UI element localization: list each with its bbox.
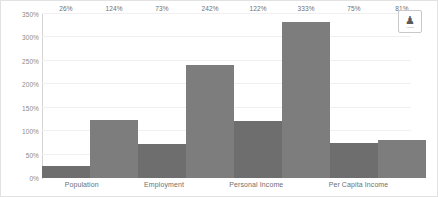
- y-tick-label: 200%: [3, 81, 39, 88]
- y-tick-label: 150%: [3, 104, 39, 111]
- bar-column: 333%: [282, 14, 330, 178]
- bar-column: 81%: [378, 14, 426, 178]
- chart-figure: 0%50%100%150%200%250%300%350% 26%124%73%…: [0, 0, 438, 197]
- logo-badge[interactable]: ♟ LOGO: [398, 10, 422, 33]
- bar-value-label: 73%: [155, 5, 168, 12]
- bar-value-label: 122%: [249, 5, 266, 12]
- bar-value-label: 75%: [347, 5, 360, 12]
- bar-groups: 26%124%73%242%122%333%75%81%: [42, 14, 411, 178]
- bar-group: 73%242%: [138, 14, 234, 178]
- y-tick-label: 50%: [3, 151, 39, 158]
- logo-caption: LOGO: [406, 26, 414, 29]
- y-tick-label: 100%: [3, 128, 39, 135]
- bar-column: 75%: [330, 14, 378, 178]
- x-tick-label: Employment: [144, 181, 184, 188]
- bar[interactable]: 122%: [234, 121, 282, 178]
- bar-column: 242%: [186, 14, 234, 178]
- bar-value-label: 26%: [59, 5, 72, 12]
- bar-column: 122%: [234, 14, 282, 178]
- x-axis-category-labels: PopulationEmploymentPersonal IncomePer C…: [42, 181, 411, 188]
- bar-column: 124%: [90, 14, 138, 178]
- bar-group: 75%81%: [330, 14, 426, 178]
- bar-value-label: 124%: [105, 5, 122, 12]
- plot-area: 26%124%73%242%122%333%75%81%: [42, 14, 411, 178]
- x-tick-label: Per Capita Income: [329, 181, 389, 188]
- bar-value-label: 333%: [297, 5, 314, 12]
- logo-emblem-icon: ♟: [405, 15, 415, 26]
- bar-value-label: 242%: [201, 5, 218, 12]
- bar[interactable]: 124%: [90, 120, 138, 178]
- bar[interactable]: 333%: [282, 22, 330, 178]
- bar-column: 26%: [42, 14, 90, 178]
- x-tick-label: Population: [65, 181, 99, 188]
- bar-group: 26%124%: [42, 14, 138, 178]
- y-tick-label: 300%: [3, 34, 39, 41]
- bar[interactable]: 81%: [378, 140, 426, 178]
- bar-column: 73%: [138, 14, 186, 178]
- bar[interactable]: 73%: [138, 144, 186, 178]
- x-tick-label: Personal Income: [229, 181, 283, 188]
- bar[interactable]: 242%: [186, 65, 234, 178]
- bar[interactable]: 26%: [42, 166, 90, 178]
- y-tick-label: 250%: [3, 57, 39, 64]
- y-tick-label: 350%: [3, 11, 39, 18]
- bar[interactable]: 75%: [330, 143, 378, 178]
- bar-group: 122%333%: [234, 14, 330, 178]
- y-axis-tick-labels: 0%50%100%150%200%250%300%350%: [1, 14, 39, 179]
- y-tick-label: 0%: [3, 175, 39, 182]
